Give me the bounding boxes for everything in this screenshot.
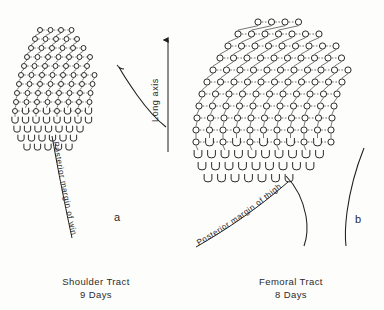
follicle-circle	[315, 115, 321, 121]
follicle-circle	[43, 64, 48, 69]
follicle-column-connector	[91, 87, 93, 90]
follicle-u-symbol	[64, 117, 70, 123]
follicle-circle	[226, 91, 232, 97]
follicle-column-connector	[247, 50, 255, 54]
follicle-u-symbol	[24, 126, 30, 132]
follicle-column-connector	[282, 38, 292, 42]
follicle-column-connector	[253, 98, 256, 102]
follicle-column-connector	[296, 38, 306, 42]
follicle-circle	[77, 100, 82, 105]
follicle-column-connector	[45, 60, 48, 63]
follicle-circle	[14, 100, 19, 105]
follicle-circle	[275, 31, 281, 37]
follicle-circle	[55, 109, 60, 114]
follicle-circle	[45, 100, 50, 105]
follicle-column-connector	[84, 69, 87, 72]
follicle-circle	[248, 31, 254, 37]
follicle-column-connector	[199, 98, 202, 102]
follicle-circle	[250, 103, 256, 109]
follicle-column-connector	[79, 96, 80, 99]
follicle-circle	[253, 91, 259, 97]
follicle-column-connector	[57, 105, 58, 108]
follicle-circle	[87, 100, 92, 105]
follicle-circle	[328, 139, 334, 145]
follicle-u-symbol	[314, 138, 322, 145]
follicle-u-symbol	[275, 150, 283, 157]
follicle-column-connector	[82, 78, 84, 81]
follicle-circle	[244, 79, 250, 85]
follicle-u-symbol	[258, 174, 266, 181]
follicle-circle	[36, 91, 41, 96]
follicle-column-connector	[267, 98, 270, 102]
panel-b-caption-age: 8 Days	[216, 288, 366, 301]
follicle-circle	[67, 55, 72, 60]
follicle-circle	[255, 19, 261, 25]
follicle-circle	[271, 79, 277, 85]
follicle-circle	[316, 31, 322, 37]
follicle-u-symbol	[54, 117, 60, 123]
follicle-column-connector	[223, 146, 225, 150]
follicle-column-connector	[278, 110, 280, 114]
follicle-circle	[80, 82, 85, 87]
follicle-circle	[282, 19, 288, 25]
follicle-circle	[71, 46, 76, 51]
panel-b-inner-margin-arc	[286, 176, 307, 246]
follicle-column-connector	[49, 87, 51, 90]
follicle-column-connector	[48, 96, 49, 99]
follicle-column-connector	[261, 50, 269, 54]
follicle-column-connector	[213, 62, 220, 66]
follicle-u-symbol	[218, 174, 226, 181]
follicle-column-connector	[319, 110, 321, 114]
follicle-column-connector	[337, 86, 342, 90]
follicle-column-connector	[254, 62, 261, 66]
follicle-circle	[304, 67, 310, 73]
follicle-u-symbol	[43, 117, 49, 123]
panel-letter-a: a	[114, 211, 120, 223]
follicle-u-symbol	[272, 174, 280, 181]
follicle-circle	[66, 100, 71, 105]
follicle-column-connector	[242, 38, 252, 42]
follicle-column-connector	[305, 110, 307, 114]
figure-root: Posterior margin of wing Long axis Poste…	[0, 0, 384, 310]
follicle-circle	[235, 31, 241, 37]
follicle-circle	[34, 109, 39, 114]
follicle-column-connector	[270, 86, 275, 90]
follicle-u-symbol	[24, 144, 30, 150]
follicle-circle	[319, 43, 325, 49]
follicle-column-connector	[61, 78, 63, 81]
follicle-column-connector	[324, 86, 329, 90]
follicle-circle	[234, 115, 240, 121]
follicle-column-connector	[197, 110, 199, 114]
follicle-circle	[277, 103, 283, 109]
follicle-column-connector	[207, 74, 213, 78]
follicle-circle	[266, 91, 272, 97]
follicle-column-connector	[294, 62, 301, 66]
follicle-circle	[27, 82, 32, 87]
follicle-circle	[199, 91, 205, 97]
follicle-column-connector	[318, 122, 319, 126]
follicle-column-connector	[227, 62, 234, 66]
follicle-u-symbol	[239, 162, 247, 169]
follicle-u-symbol	[66, 144, 72, 150]
follicle-column-connector	[67, 33, 72, 36]
follicle-circle	[292, 43, 298, 49]
follicle-circle	[293, 91, 299, 97]
follicle-column-connector	[277, 146, 279, 150]
follicle-u-symbol	[33, 117, 39, 123]
follicle-u-symbol	[235, 150, 243, 157]
follicle-u-symbol	[293, 162, 301, 169]
follicle-circle	[331, 67, 337, 73]
follicle-u-symbol	[75, 117, 81, 123]
follicle-u-symbol	[289, 150, 297, 157]
follicle-circle	[277, 67, 283, 73]
follicle-circle	[17, 82, 22, 87]
follicle-column-connector	[224, 110, 226, 114]
follicle-circle	[279, 43, 285, 49]
follicle-circle	[19, 73, 24, 78]
follicle-column-connector	[80, 51, 84, 54]
follicle-column-connector	[294, 98, 297, 102]
follicle-circle	[244, 55, 250, 61]
follicle-circle	[314, 127, 320, 133]
follicle-circle	[345, 67, 351, 73]
follicle-circle	[263, 103, 269, 109]
